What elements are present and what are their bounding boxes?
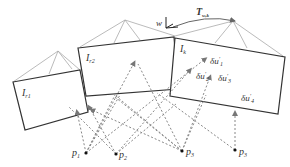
label-transform: Tw,k xyxy=(196,6,210,18)
frame-r1 xyxy=(13,70,88,130)
world-frame-axes-icon xyxy=(166,17,178,28)
point-p2 xyxy=(114,152,117,155)
point-p3 xyxy=(180,149,183,152)
point-p3b xyxy=(233,148,236,151)
label-world: w xyxy=(156,18,162,28)
frame-r2 xyxy=(78,37,178,96)
points xyxy=(84,148,236,155)
label-p3: p3 xyxy=(185,146,194,158)
label-p1: p1 xyxy=(71,147,80,159)
label-p3b: p3 xyxy=(238,146,247,158)
diagram-canvas: Ir1 Ir2 Ik Tw,k w δu′1 δu′2 δu′3 δu′4 p1… xyxy=(0,0,290,167)
point-p1 xyxy=(84,151,87,154)
label-p2: p2 xyxy=(118,149,127,161)
